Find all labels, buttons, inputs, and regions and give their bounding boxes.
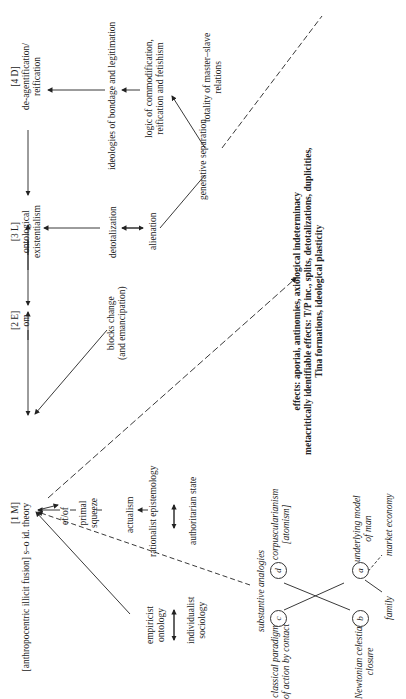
- effects-label: effects: aporiai, antinomies, axiologica…: [292, 148, 325, 455]
- primal-line1: primal: [78, 498, 89, 528]
- underlying-line1: underlying model: [352, 495, 363, 562]
- label-ideologies: ideologies of bondage and legitimation: [107, 22, 118, 170]
- label-corpuscularianism: corpuscularianism [atomism]: [270, 489, 292, 560]
- node-4d-line1: de-agentification/: [21, 43, 32, 110]
- corpuscularianism-line2: [atomism]: [281, 489, 292, 560]
- detotalization-text: detotalization: [108, 206, 119, 258]
- totality-line2: relations: [213, 33, 224, 122]
- circle-a: a: [352, 562, 369, 579]
- market-text: market economy: [384, 493, 395, 556]
- ideologies-text: ideologies of bondage and legitimation: [107, 22, 118, 170]
- node-1m-tag: [1 M]: [10, 502, 21, 672]
- label-rationalist: rationalist epistemology: [148, 465, 159, 557]
- actualism-text: actualism: [125, 497, 136, 533]
- node-2e-tag: [2 E]: [10, 311, 21, 330]
- node-4d: [4 D] de-agentification/ reification: [10, 43, 43, 110]
- logic-line1: logic of commodification,: [144, 39, 155, 138]
- label-newtonian: Newtonian celestial closure: [354, 624, 376, 699]
- effects-line2: metacritically identifiable effects: T/P…: [303, 148, 314, 455]
- newtonian-line1: Newtonian celestial: [354, 624, 365, 699]
- corpuscularianism-line1: corpuscularianism: [270, 489, 281, 560]
- node-3l-line1: ontological: [21, 205, 32, 258]
- empiricist-line1: empiricist: [145, 606, 156, 644]
- label-individualist: individualist sociology: [186, 597, 208, 645]
- label-substantive-analogies: substantive analogies: [256, 550, 267, 632]
- label-alienation: alienation: [148, 213, 159, 250]
- circle-b: b: [352, 610, 369, 627]
- label-classical: classical paradigm of action by contact: [270, 624, 292, 699]
- efof-text: ef/of: [60, 507, 71, 525]
- node-4d-tag: [4 D]: [10, 43, 21, 110]
- totality-line1: totality of master–slave: [202, 33, 213, 122]
- alienation-text: alienation: [148, 213, 159, 250]
- node-3l-tag: [3 L]: [10, 205, 21, 258]
- node-3l-line2: existentialism: [32, 205, 43, 258]
- substantive-text: substantive analogies: [256, 550, 267, 632]
- node-3l: [3 L] ontological existentialism: [10, 205, 43, 258]
- node-1m: [1 M] [anthropocentric illicit fusion] s…: [10, 502, 32, 672]
- node-4d-line2: reification: [32, 43, 43, 110]
- primal-line2: squeeze: [89, 498, 100, 528]
- label-family: family: [384, 596, 395, 620]
- label-primal-squeeze: primal squeeze: [78, 498, 100, 528]
- label-actualism: actualism: [125, 497, 136, 533]
- label-authoritarian: authoritarian state: [188, 477, 199, 545]
- circle-c: c: [270, 610, 287, 627]
- blocks-line1: blocks change: [106, 286, 117, 360]
- authoritarian-text: authoritarian state: [188, 477, 199, 545]
- label-underlying-model: underlying model of man: [352, 495, 374, 562]
- label-detotalization: detotalization: [108, 206, 119, 258]
- classical-line2: of action by contact: [281, 624, 292, 699]
- label-blocks-change: blocks change (and emancipation): [106, 286, 128, 360]
- label-market-economy: market economy: [384, 493, 395, 556]
- rationalist-text: rationalist epistemology: [148, 465, 159, 557]
- individualist-line1: individualist: [186, 597, 197, 645]
- label-logic-commodification: logic of commodification, reification an…: [144, 39, 166, 138]
- generative-text: generative separation: [198, 119, 209, 200]
- node-2e-line1: om: [21, 311, 32, 330]
- label-empiricist: empiricist ontology: [145, 606, 167, 644]
- newtonian-line2: closure: [365, 624, 376, 699]
- circle-d: d: [270, 562, 287, 579]
- effects-line3: Tina formations, ideological plasticity: [314, 148, 325, 455]
- blocks-line2: (and emancipation): [117, 286, 128, 360]
- family-text: family: [384, 596, 395, 620]
- individualist-line2: sociology: [197, 597, 208, 645]
- classical-line1: classical paradigm: [270, 624, 281, 699]
- label-generative-separation: generative separation: [198, 119, 209, 200]
- label-efof: ef/of: [60, 507, 71, 525]
- node-2e: [2 E] om: [10, 311, 32, 330]
- logic-line2: reification and fetishism: [155, 39, 166, 138]
- label-totality: totality of master–slave relations: [202, 33, 224, 122]
- node-1m-line1: [anthropocentric illicit fusion] s–o id.…: [21, 502, 32, 672]
- effects-line1: effects: aporiai, antinomies, axiologica…: [292, 148, 303, 455]
- underlying-line2: of man: [363, 495, 374, 562]
- empiricist-line2: ontology: [156, 606, 167, 644]
